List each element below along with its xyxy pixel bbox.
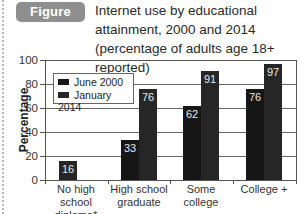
x-category-some-college: Some college	[166, 183, 236, 209]
bar-value-label: 97	[264, 66, 282, 78]
bar-college-plus-jan-2014: 97	[264, 64, 282, 180]
legend-swatch-icon	[58, 79, 69, 85]
y-axis-line	[45, 60, 46, 181]
x-axis-line	[45, 180, 297, 181]
bar-some-college-june-2000: 62	[183, 106, 201, 180]
bar-hs-grad-june-2000: 33	[121, 140, 139, 180]
x-category-hs-graduate: High school graduate	[104, 183, 174, 209]
category-line: graduate	[104, 196, 174, 209]
bar-value-label: 62	[183, 108, 201, 120]
bar-college-plus-june-2000: 76	[246, 89, 264, 180]
category-line: Some	[166, 183, 236, 196]
bar-value-label: 91	[201, 73, 219, 85]
page-margin-dotted-rule	[2, 0, 4, 214]
bar-no-diploma-jan-2014: 16	[59, 161, 77, 180]
category-line: High school	[104, 183, 174, 196]
bar-value-label: 33	[121, 142, 139, 154]
figure-number-badge: Figure 11.3	[16, 2, 85, 22]
x-category-no-diploma: No high school diploma*	[41, 183, 111, 214]
bar-hs-grad-jan-2014: 76	[139, 89, 157, 180]
category-line: diploma*	[41, 209, 111, 214]
chart-legend: June 2000 January 2014	[53, 73, 134, 104]
bar-some-college-jan-2014: 91	[201, 71, 219, 180]
legend-item-january-2014: January 2014	[58, 89, 133, 101]
y-tick-label: 0	[14, 174, 38, 186]
y-tick-label: 100	[14, 54, 38, 66]
category-line: college	[166, 196, 236, 209]
y-tick-label: 80	[14, 78, 38, 90]
legend-item-june-2000: June 2000	[58, 76, 123, 88]
y-tick-label: 40	[14, 126, 38, 138]
category-line: College +	[229, 183, 299, 196]
y-tick-label: 60	[14, 102, 38, 114]
bar-value-label: 76	[139, 91, 157, 103]
bar-value-label: 16	[59, 163, 77, 175]
legend-swatch-icon	[58, 92, 69, 98]
y-tick-label: 20	[14, 150, 38, 162]
legend-label: June 2000	[74, 76, 123, 88]
category-line: No high school	[41, 183, 111, 209]
x-category-college-plus: College +	[229, 183, 299, 196]
y-axis-title: Percentage	[17, 80, 31, 160]
bar-value-label: 76	[246, 91, 264, 103]
